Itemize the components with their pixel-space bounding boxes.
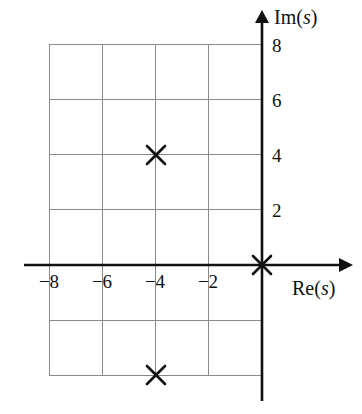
y-tick-label-8: 8	[272, 35, 282, 56]
svg-text:Re(s): Re(s)	[292, 277, 335, 300]
y-tick-label-2: 2	[272, 200, 282, 221]
y-tick-label-4: 4	[272, 145, 282, 166]
real-axis	[24, 258, 353, 272]
imaginary-axis-label-prefix: Im(	[274, 6, 303, 29]
real-axis-label-prefix: Re(	[292, 277, 321, 300]
x-tick-label--6: −6	[92, 271, 112, 292]
pole-zero-plot: −8 −6 −4 −2 8 6 4 2 Im(s) Re(s) pole at …	[0, 0, 362, 414]
y-axis-tick-labels: 8 6 4 2	[272, 35, 282, 221]
x-tick-label--8: −8	[39, 271, 59, 292]
imaginary-axis-arrow-icon	[255, 10, 269, 23]
real-axis-arrow-icon	[339, 258, 353, 272]
imaginary-axis-label-variable: s	[303, 6, 311, 28]
y-tick-label-6: 6	[272, 90, 282, 111]
x-tick-label--2: −2	[198, 271, 218, 292]
svg-text:Im(s): Im(s)	[274, 6, 317, 29]
s-plane-pole-plot-figure: −8 −6 −4 −2 8 6 4 2 Im(s) Re(s) pole at …	[0, 0, 362, 414]
imaginary-axis	[255, 10, 269, 401]
x-axis-tick-labels: −8 −6 −4 −2	[39, 271, 218, 292]
imaginary-axis-label-suffix: )	[311, 6, 318, 29]
real-axis-label: Re(s)	[292, 277, 335, 300]
real-axis-label-suffix: )	[329, 277, 336, 300]
x-tick-label--4: −4	[145, 271, 166, 292]
real-axis-label-variable: s	[321, 277, 329, 299]
imaginary-axis-label: Im(s)	[274, 6, 317, 29]
